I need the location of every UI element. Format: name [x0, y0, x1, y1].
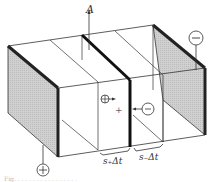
figure-caption: Fig. . . . . . . . . . . . . . . . .: [4, 175, 77, 182]
positive-terminal-icon: [37, 145, 49, 176]
area-plane-A: [82, 35, 130, 147]
area-label: A: [85, 3, 94, 16]
slab-dividers: [50, 25, 163, 150]
negative-distance-label: s₋Δt: [139, 152, 159, 162]
negative-ion: [132, 103, 154, 115]
positive-distance-brace: [100, 148, 130, 155]
center-mark: +: [115, 105, 123, 115]
positive-distance-label: s₊Δt: [103, 156, 123, 166]
positive-ion: [101, 95, 116, 103]
electrolytic-cell-diagram: A + s₊Δt s₋Δt Fig. . . . . . . . . .: [0, 0, 215, 182]
left-electrode: [8, 46, 58, 157]
